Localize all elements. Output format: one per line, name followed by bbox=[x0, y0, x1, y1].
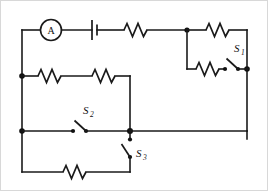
resistor-top-left bbox=[124, 24, 147, 37]
switch-s1-label: S bbox=[234, 42, 240, 54]
switch-s3-blade bbox=[122, 144, 131, 157]
switch-s3-top-contact bbox=[128, 137, 132, 141]
switch-s2-sublabel: 2 bbox=[90, 110, 94, 119]
resistor-zigzag bbox=[63, 166, 86, 179]
switch-s2-label: S bbox=[83, 104, 89, 116]
resistor-zigzag bbox=[92, 70, 115, 83]
resistor-zigzag bbox=[196, 63, 219, 76]
switch-s3-sublabel: 3 bbox=[142, 153, 147, 162]
switch-s1-blade bbox=[227, 59, 239, 70]
resistor-mid-right bbox=[92, 70, 115, 83]
ammeter-label: A bbox=[47, 25, 55, 36]
resistor-zigzag bbox=[124, 24, 147, 37]
switch-s2-blade bbox=[75, 121, 87, 132]
switch-s1[interactable]: S 1 bbox=[223, 42, 247, 71]
switch-s3[interactable]: S 3 bbox=[122, 131, 148, 172]
circuit-diagram: A bbox=[0, 0, 268, 191]
switch-s1-sublabel: 1 bbox=[241, 48, 245, 57]
switch-s3-label: S bbox=[136, 147, 142, 159]
resistor-bottom bbox=[63, 166, 86, 179]
resistor-zigzag bbox=[206, 24, 229, 37]
ammeter-icon: A bbox=[41, 20, 62, 41]
resistor-mid-left bbox=[38, 70, 61, 83]
switch-s1-left-contact bbox=[223, 67, 227, 71]
circuit-schematic-canvas: A bbox=[0, 0, 268, 191]
switch-s2-left-contact bbox=[71, 129, 75, 133]
resistor-zigzag bbox=[38, 70, 61, 83]
switch-s2[interactable]: S 2 bbox=[71, 104, 130, 133]
resistor-s1-branch bbox=[196, 63, 219, 76]
resistor-top-right bbox=[206, 24, 229, 37]
